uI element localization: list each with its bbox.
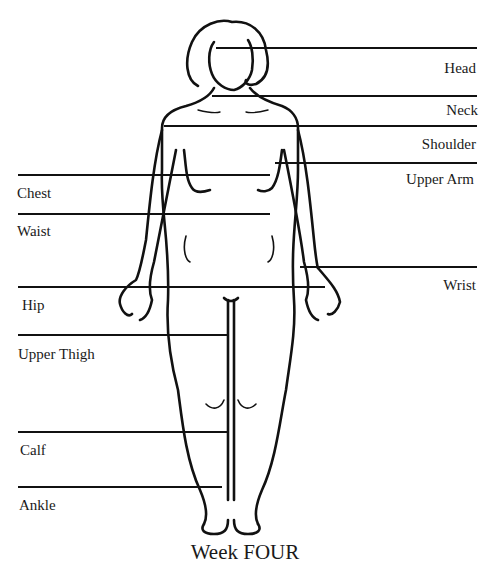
measurement-lines bbox=[18, 48, 477, 487]
label-ankle: Ankle bbox=[19, 498, 56, 513]
label-hip: Hip bbox=[22, 298, 45, 313]
body-measurement-diagram: Head Neck Shoulder Upper Arm Wrist Chest… bbox=[0, 0, 490, 576]
right-foot bbox=[234, 520, 260, 534]
label-shoulder: Shoulder bbox=[422, 137, 476, 152]
torso-left-outline bbox=[162, 88, 214, 524]
body-outline-illustration bbox=[0, 0, 490, 576]
diagram-title: Week FOUR bbox=[0, 540, 490, 565]
label-calf: Calf bbox=[20, 443, 46, 458]
left-foot bbox=[202, 520, 228, 534]
label-upper-thigh: Upper Thigh bbox=[18, 347, 95, 362]
torso-right-outline bbox=[250, 88, 298, 524]
label-waist: Waist bbox=[17, 224, 51, 239]
inner-leg-line bbox=[228, 300, 234, 500]
label-wrist: Wrist bbox=[443, 278, 476, 293]
label-head: Head bbox=[444, 61, 476, 76]
label-upper-arm: Upper Arm bbox=[406, 172, 474, 187]
label-chest: Chest bbox=[17, 186, 51, 201]
label-neck: Neck bbox=[446, 103, 478, 118]
hair-outline bbox=[187, 21, 268, 86]
